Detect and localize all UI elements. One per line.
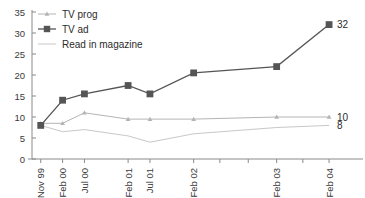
- legend-item-tv-ad[interactable]: TV ad: [38, 24, 89, 35]
- x-tick-label: Nov 99: [35, 168, 46, 198]
- legend-item-tv-prog[interactable]: TV prog: [38, 9, 98, 20]
- y-tick-label: 25: [14, 49, 25, 60]
- legend-swatch-marker: [44, 26, 50, 32]
- data-point-marker: [273, 63, 280, 70]
- data-point-marker: [37, 122, 44, 129]
- legend-label: Read in magazine: [62, 39, 143, 50]
- x-tick-label: Jul 00: [79, 168, 90, 193]
- data-point-marker: [59, 97, 66, 104]
- data-point-marker: [190, 70, 197, 77]
- legend-label: TV prog: [62, 9, 98, 20]
- series-line: [41, 125, 329, 142]
- x-tick-label: Feb 00: [57, 168, 68, 198]
- legend-label: TV ad: [62, 24, 89, 35]
- series-read-in-magazine: [41, 125, 329, 142]
- end-label-tv-ad: 32: [337, 19, 349, 30]
- x-tick-label: Feb 03: [271, 168, 282, 198]
- data-point-marker: [326, 21, 333, 28]
- end-label-read-in-magazine: 8: [337, 120, 343, 131]
- y-tick-label: 15: [14, 91, 25, 102]
- x-tick-label: Feb 02: [188, 168, 199, 198]
- x-tick-label: Jul 01: [144, 168, 155, 193]
- y-tick-label: 10: [14, 112, 25, 123]
- y-tick-label: 5: [20, 133, 25, 144]
- y-tick-label: 0: [20, 154, 25, 165]
- series-tv-prog: [38, 110, 331, 125]
- data-point-marker: [147, 91, 154, 98]
- x-tick-label: Feb 04: [324, 168, 335, 198]
- data-point-marker: [82, 110, 87, 114]
- y-tick-label: 30: [14, 28, 25, 39]
- x-tick-label: Feb 01: [123, 168, 134, 198]
- y-tick-label: 35: [14, 7, 25, 18]
- data-point-marker: [125, 82, 132, 89]
- legend-item-read-in-magazine[interactable]: Read in magazine: [38, 39, 143, 50]
- series-tv-ad: [37, 21, 332, 129]
- chart-canvas: 05101520253035Nov 99Feb 00Jul 00Feb 01Ju…: [0, 0, 365, 198]
- y-tick-label: 20: [14, 70, 25, 81]
- line-chart: 05101520253035Nov 99Feb 00Jul 00Feb 01Ju…: [0, 0, 365, 198]
- data-point-marker: [81, 91, 88, 98]
